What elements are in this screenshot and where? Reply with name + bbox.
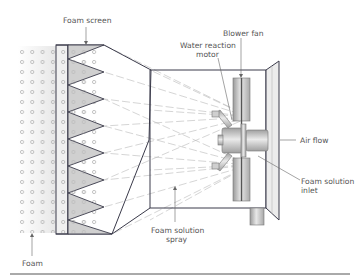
label-foam: Foam bbox=[22, 259, 43, 268]
label-air-flow: Air flow bbox=[300, 136, 328, 145]
label-water-reaction-motor: Water reaction bbox=[180, 41, 236, 50]
label-foam-solution-inlet-2: inlet bbox=[301, 186, 318, 195]
label-foam-solution-spray: Foam solution bbox=[151, 226, 204, 235]
label-foam-solution-spray-2: spray bbox=[166, 235, 188, 244]
label-foam-solution-inlet: Foam solution bbox=[301, 177, 354, 186]
foam-generator-diagram: Foam screen Blower fan Water reaction mo… bbox=[0, 0, 364, 277]
label-foam-screen: Foam screen bbox=[63, 16, 112, 25]
label-blower-fan: Blower fan bbox=[223, 29, 264, 38]
drain-pipe bbox=[250, 208, 264, 225]
duct-cone bbox=[104, 45, 151, 234]
label-water-reaction-motor-2: motor bbox=[196, 50, 220, 59]
